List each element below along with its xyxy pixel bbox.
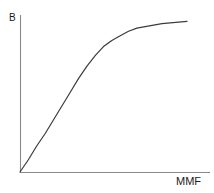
y-axis-label: B — [9, 12, 16, 23]
chart-canvas: B MMF — [0, 0, 214, 193]
x-axis-label: MMF — [176, 175, 201, 187]
chart-background — [0, 0, 214, 193]
chart-figure: B MMF — [0, 0, 214, 193]
